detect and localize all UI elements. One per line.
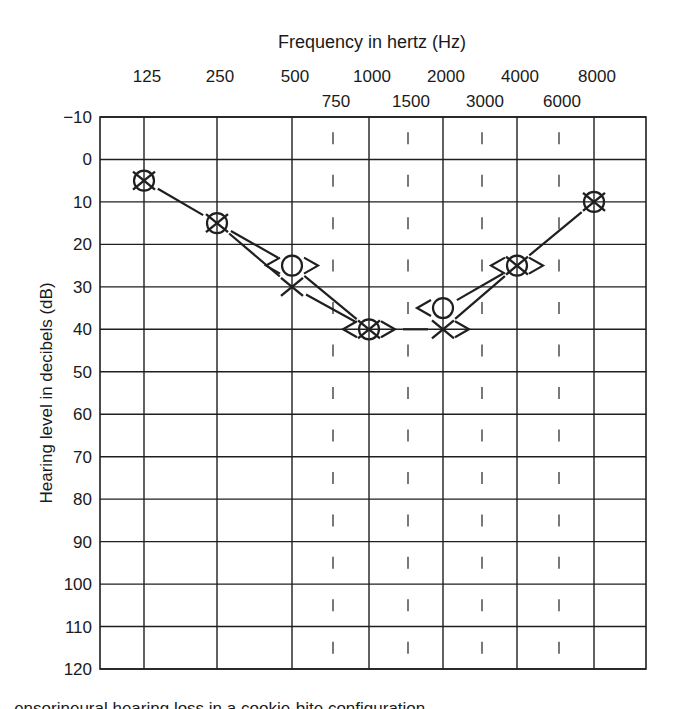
y-tick-label: 70 (73, 448, 92, 467)
y-tick-label: 30 (73, 278, 92, 297)
bone-conduction-right-marker (491, 258, 505, 274)
x-tick-label: 2000 (427, 67, 465, 86)
y-tick-label: 80 (73, 490, 92, 509)
bone-conduction-left-marker (304, 258, 318, 274)
y-tick-labels: −100102030405060708090100110120 (63, 108, 92, 679)
x-secondary-tick-label: 6000 (543, 92, 581, 111)
audiogram-chart: Frequency in hertz (Hz) 1252505001000200… (0, 0, 676, 709)
x-secondary-tick-label: 3000 (466, 92, 504, 111)
y-tick-label: 110 (65, 618, 92, 637)
plot-grid (100, 117, 646, 669)
y-tick-label: 10 (73, 193, 92, 212)
x-tick-label: 4000 (501, 67, 539, 86)
y-tick-label: 0 (83, 150, 92, 169)
connector-line (529, 212, 581, 255)
y-tick-label: 90 (73, 533, 92, 552)
y-tick-label: 60 (73, 405, 92, 424)
y-tick-label: 20 (73, 235, 92, 254)
bone-conduction-left-marker (529, 258, 543, 274)
x-tick-label: 500 (281, 67, 309, 86)
x-tick-label: 125 (133, 67, 161, 86)
x-secondary-tick-labels: 750150030006000 (322, 92, 581, 111)
figure-caption: ...ensorineural hearing loss in a cookie… (0, 697, 676, 709)
y-axis-title: Hearing level in decibels (dB) (37, 282, 56, 503)
audiogram-svg: Frequency in hertz (Hz) 1252505001000200… (0, 0, 676, 709)
y-tick-label: 40 (73, 320, 92, 339)
bone-conduction-right-marker (417, 300, 431, 316)
x-tick-label: 1000 (353, 67, 391, 86)
y-tick-label: −10 (63, 108, 92, 127)
x-secondary-tick-label: 750 (322, 92, 350, 111)
x-secondary-tick-label: 1500 (392, 92, 430, 111)
x-primary-tick-labels: 1252505001000200040008000 (133, 67, 616, 86)
y-tick-label: 120 (64, 660, 92, 679)
x-tick-label: 8000 (578, 67, 616, 86)
x-tick-label: 250 (206, 67, 234, 86)
plot-border (100, 117, 646, 669)
x-axis-title: Frequency in hertz (Hz) (278, 32, 466, 52)
y-tick-label: 100 (64, 575, 92, 594)
y-tick-label: 50 (73, 363, 92, 382)
connecting-lines (158, 189, 582, 330)
